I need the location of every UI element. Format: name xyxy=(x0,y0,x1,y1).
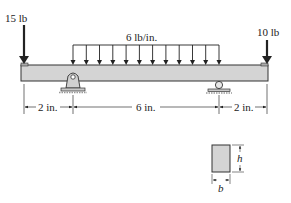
distributed-load: 6 lb/in. xyxy=(71,31,222,65)
dimension-label-right: 2 in. xyxy=(234,101,254,113)
roller-support xyxy=(206,81,232,93)
left-point-load: 15 lb xyxy=(5,12,29,64)
dimension-label-left: 2 in. xyxy=(38,101,58,113)
beam xyxy=(21,63,268,81)
cross-section: h b xyxy=(212,145,244,194)
right-point-load: 10 lb xyxy=(257,26,280,64)
width-label: b xyxy=(218,182,224,194)
right-load-label: 10 lb xyxy=(257,26,280,38)
height-label: h xyxy=(237,152,243,164)
dimension-label-middle: 6 in. xyxy=(136,101,156,113)
distributed-load-label: 6 lb/in. xyxy=(126,31,157,43)
beam-diagram: 15 lb 10 lb xyxy=(0,0,291,203)
left-load-label: 15 lb xyxy=(5,12,28,24)
